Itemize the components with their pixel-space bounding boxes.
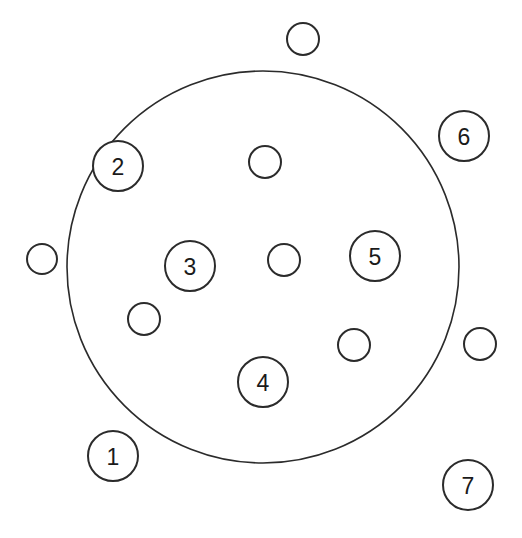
circle-label-3: 3: [184, 254, 197, 280]
numbered-circle-6[interactable]: 6: [439, 111, 489, 161]
circle-diagram: 1234567: [0, 0, 522, 538]
unlabeled-circle-9[interactable]: [27, 244, 57, 274]
numbered-circle-4[interactable]: 4: [238, 357, 288, 407]
numbered-circle-5[interactable]: 5: [350, 231, 400, 281]
numbered-circle-7[interactable]: 7: [443, 460, 493, 510]
circle-label-4: 4: [257, 370, 270, 396]
numbered-circle-2[interactable]: 2: [93, 141, 143, 191]
numbered-circle-1[interactable]: 1: [88, 431, 138, 481]
unlabeled-circle-11[interactable]: [249, 146, 281, 178]
circle-label-7: 7: [462, 473, 475, 499]
circle-label-1: 1: [107, 444, 120, 470]
unlabeled-circle-10[interactable]: [464, 328, 496, 360]
numbered-circle-3[interactable]: 3: [165, 241, 215, 291]
unlabeled-circle-13[interactable]: [128, 303, 160, 335]
circle-outline: [464, 328, 496, 360]
unlabeled-circle-12[interactable]: [268, 244, 300, 276]
circle-outline: [27, 244, 57, 274]
circle-outline: [128, 303, 160, 335]
circle-label-6: 6: [458, 124, 471, 150]
unlabeled-circle-14[interactable]: [338, 329, 370, 361]
diagram-canvas: 1234567: [0, 0, 522, 538]
circle-outline: [338, 329, 370, 361]
unlabeled-circle-8[interactable]: [287, 23, 319, 55]
nodes-layer: 1234567: [27, 23, 496, 510]
circle-outline: [249, 146, 281, 178]
circle-label-2: 2: [112, 154, 125, 180]
circle-outline: [287, 23, 319, 55]
circle-outline: [268, 244, 300, 276]
circle-label-5: 5: [369, 244, 382, 270]
